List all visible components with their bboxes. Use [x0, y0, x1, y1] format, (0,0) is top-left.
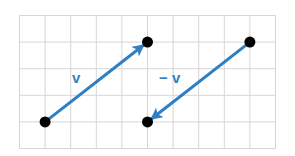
- vector-diagram: v − v: [0, 0, 295, 156]
- vector-arrow-v: [45, 46, 143, 122]
- point-p2: [142, 37, 153, 48]
- vector-label-v: v: [72, 69, 81, 86]
- vector-label-neg-v: − v: [159, 69, 181, 86]
- point-p4: [142, 116, 153, 127]
- grid: [20, 16, 276, 149]
- point-p1: [40, 116, 51, 127]
- point-p3: [244, 37, 255, 48]
